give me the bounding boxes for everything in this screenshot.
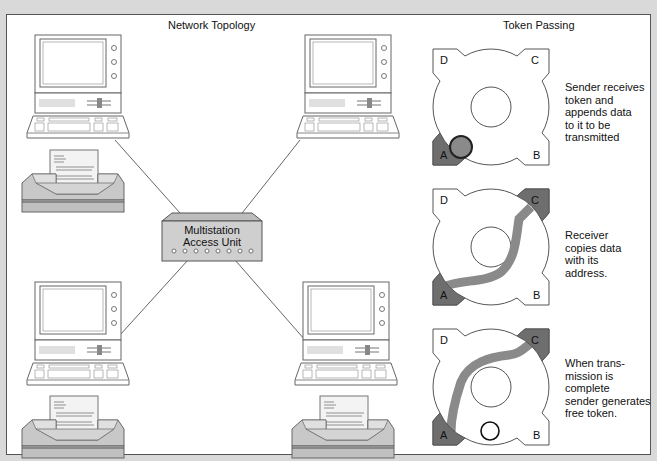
station-bottom-right: [292, 282, 397, 458]
token-ring-step-1: DC AB: [433, 49, 549, 165]
svg-text:D: D: [440, 194, 448, 206]
svg-text:B: B: [533, 429, 540, 441]
step-3-caption: When trans- mission is complete sender g…: [565, 357, 651, 420]
token-passing-title: Token Passing: [503, 19, 575, 31]
svg-text:B: B: [533, 289, 540, 301]
svg-text:B: B: [533, 149, 540, 161]
computer-icon: [295, 282, 397, 385]
token-ring-step-2: DC AB: [433, 189, 549, 305]
network-topology-title: Network Topology: [168, 19, 255, 31]
token-ring-step-3: DC AB: [433, 329, 549, 445]
diagram-canvas: DC AB DC AB DC AB: [0, 0, 657, 461]
step-1-caption: Sender receives token and appends data t…: [565, 81, 645, 144]
computer-icon: [27, 282, 129, 385]
svg-text:C: C: [531, 54, 539, 66]
mau-label-line1: Multistation: [162, 224, 262, 236]
svg-text:D: D: [440, 54, 448, 66]
station-top-left: [22, 35, 129, 212]
svg-text:A: A: [440, 429, 448, 441]
svg-text:A: A: [440, 289, 448, 301]
station-bottom-left: [22, 282, 129, 458]
computer-icon: [297, 35, 399, 138]
mau-label-line2: Access Unit: [162, 236, 262, 248]
svg-text:C: C: [531, 194, 539, 206]
svg-text:D: D: [440, 334, 448, 346]
mau-label: Multistation Access Unit: [162, 224, 262, 248]
computer-icon: [27, 35, 129, 138]
station-top-right: [297, 35, 399, 138]
printer-icon: [22, 396, 124, 458]
printer-icon: [292, 396, 394, 458]
step-2-caption: Receiver copies data with its address.: [565, 229, 621, 279]
svg-text:C: C: [531, 334, 539, 346]
printer-icon: [22, 150, 124, 212]
svg-text:A: A: [440, 149, 448, 161]
